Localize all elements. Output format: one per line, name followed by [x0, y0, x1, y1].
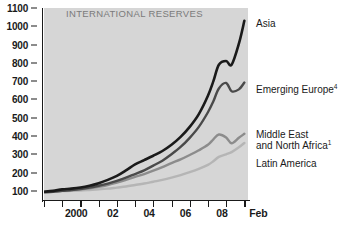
x-tick-mark: [117, 201, 118, 207]
y-tick-label: 900: [12, 39, 28, 50]
series-label-mena-line2-wrap: and North Africa1: [256, 140, 331, 151]
y-tick-mark: [31, 44, 37, 45]
x-tick-mark: [153, 201, 154, 207]
y-tick-mark: [31, 136, 37, 137]
x-tick-mark: [190, 201, 191, 207]
series-label-asia-text: Asia: [256, 18, 275, 29]
series-label-emerging-europe-footnote: 4: [334, 83, 338, 90]
x-tick-label: 06: [180, 207, 191, 219]
x-tick-mark: [208, 201, 209, 207]
y-axis-line: [42, 8, 43, 202]
series-label-latin-america: Latin America: [256, 158, 317, 169]
chart-figure: INTERNATIONAL RESERVES 10020030040050060…: [0, 0, 350, 229]
series-label-emerging-europe: Emerging Europe4: [256, 84, 337, 95]
x-tick-mark: [244, 201, 245, 207]
series-label-asia: Asia: [256, 18, 275, 29]
chart-title: INTERNATIONAL RESERVES: [66, 8, 203, 19]
x-tick-label: Feb: [249, 207, 267, 219]
series-lines-svg: [44, 8, 248, 200]
y-tick-label: 800: [12, 57, 28, 68]
series-label-mena-line1: Middle East: [256, 129, 308, 140]
y-axis: 10020030040050060070080090010001100: [0, 0, 44, 229]
series-line-latin-america: [44, 143, 244, 192]
x-tick-mark: [99, 201, 100, 207]
y-tick-mark: [31, 26, 37, 27]
y-tick-label: 400: [12, 131, 28, 142]
y-tick-mark: [31, 8, 37, 9]
x-tick-label: 02: [107, 207, 118, 219]
y-tick-mark: [31, 99, 37, 100]
x-tick-mark: [135, 201, 136, 207]
y-tick-label: 100: [12, 185, 28, 196]
x-axis-line: [42, 200, 250, 201]
x-tick-label: 08: [216, 207, 227, 219]
y-tick-mark: [31, 62, 37, 63]
x-tick-mark: [226, 201, 227, 207]
y-tick-label: 300: [12, 149, 28, 160]
series-label-emerging-europe-text: Emerging Europe: [256, 84, 334, 95]
series-label-middle-east-north-africa: Middle East and North Africa1: [256, 129, 331, 151]
y-tick-label: 500: [12, 112, 28, 123]
y-tick-mark: [31, 154, 37, 155]
x-tick-mark: [172, 201, 173, 207]
y-tick-mark: [31, 81, 37, 82]
y-tick-label: 1100: [7, 3, 28, 14]
series-label-mena-footnote: 1: [328, 139, 332, 146]
y-tick-mark: [31, 190, 37, 191]
y-tick-label: 600: [12, 94, 28, 105]
plot-area: [44, 8, 248, 200]
y-tick-mark: [31, 172, 37, 173]
series-line-asia: [44, 21, 244, 192]
y-tick-mark: [31, 117, 37, 118]
x-tick-mark: [62, 201, 63, 207]
x-tick-label: 04: [143, 207, 154, 219]
y-tick-label: 700: [12, 76, 28, 87]
y-tick-label: 1000: [7, 21, 28, 32]
y-tick-label: 200: [12, 167, 28, 178]
series-label-latin-america-text: Latin America: [256, 158, 317, 169]
x-tick-mark: [44, 201, 45, 207]
x-tick-label: 2000: [65, 207, 88, 219]
x-tick-mark: [80, 201, 81, 207]
series-label-mena-line2: and North Africa: [256, 140, 328, 151]
